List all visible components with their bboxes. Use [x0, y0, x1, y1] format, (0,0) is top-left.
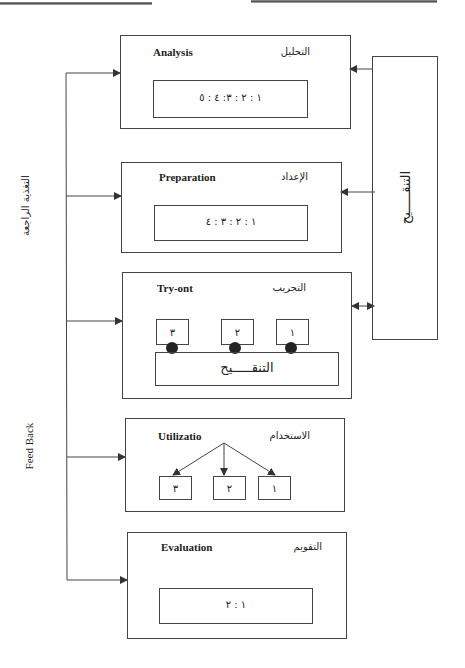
stage-try-out-label-en: Try-ont: [157, 282, 193, 294]
feedback-label-ar: التغذية الراجعة: [20, 161, 31, 251]
stage-preparation-label-en: Preparation: [159, 171, 216, 183]
stage-try-out-label-ar: التجريب: [260, 282, 306, 293]
try-out-revision-base-label: التنقـــــيح: [155, 360, 339, 375]
try-out-item-2: ٢: [221, 319, 254, 345]
feedback-label-en: Feed Back: [23, 411, 35, 481]
stage-utilization-label-en: Utilizatio: [158, 430, 201, 442]
stage-evaluation-label-ar: التقويم: [280, 541, 322, 552]
utilization-item-1: ١: [258, 476, 291, 500]
revision-box-label: التنقـــــيح: [398, 143, 413, 253]
stage-analysis-label-ar: التحليل: [264, 46, 310, 57]
utilization-item-3: ٣: [159, 476, 192, 500]
stage-analysis-sequence: ١ : ٢ : ٣: ٤ : ٥: [153, 92, 308, 103]
stage-analysis-label-en: Analysis: [153, 46, 193, 58]
stage-preparation-label-ar: الإعداد: [262, 171, 308, 182]
stage-preparation-sequence: ١ : ٢ : ٣ : ٤: [154, 216, 308, 227]
stage-evaluation-sequence: ١ : ٢: [159, 599, 313, 610]
stage-evaluation-label-en: Evaluation: [161, 541, 212, 553]
stage-utilization-label-ar: الاستخدام: [254, 430, 310, 441]
utilization-item-2: ٢: [213, 476, 246, 500]
try-out-item-1: ١: [276, 319, 309, 345]
